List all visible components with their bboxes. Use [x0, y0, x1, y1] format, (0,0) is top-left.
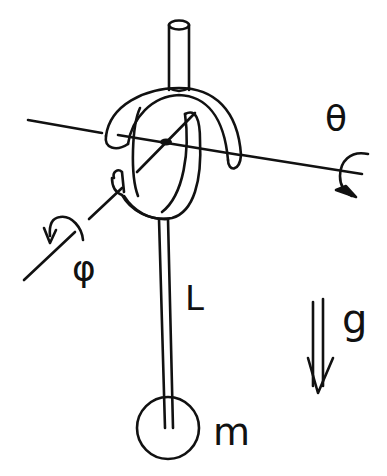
theta-axis — [28, 120, 362, 174]
mass-label: m — [213, 410, 250, 454]
gravity-label: g — [342, 296, 367, 342]
support-post — [169, 21, 189, 92]
phi-rotation-arrow-icon — [44, 217, 83, 243]
pivot-point — [160, 139, 172, 146]
theta-label: θ — [325, 98, 347, 139]
gimbal-yoke — [106, 88, 241, 168]
length-label: L — [185, 278, 204, 318]
gimbal-pendulum-diagram: θ φ L g m — [0, 0, 387, 476]
theta-rotation-arrow-icon — [336, 153, 368, 197]
gimbal-ring — [112, 108, 200, 219]
pendulum-bob — [137, 397, 199, 459]
phi-label: φ — [72, 248, 96, 289]
gravity-arrow-icon — [308, 299, 333, 393]
